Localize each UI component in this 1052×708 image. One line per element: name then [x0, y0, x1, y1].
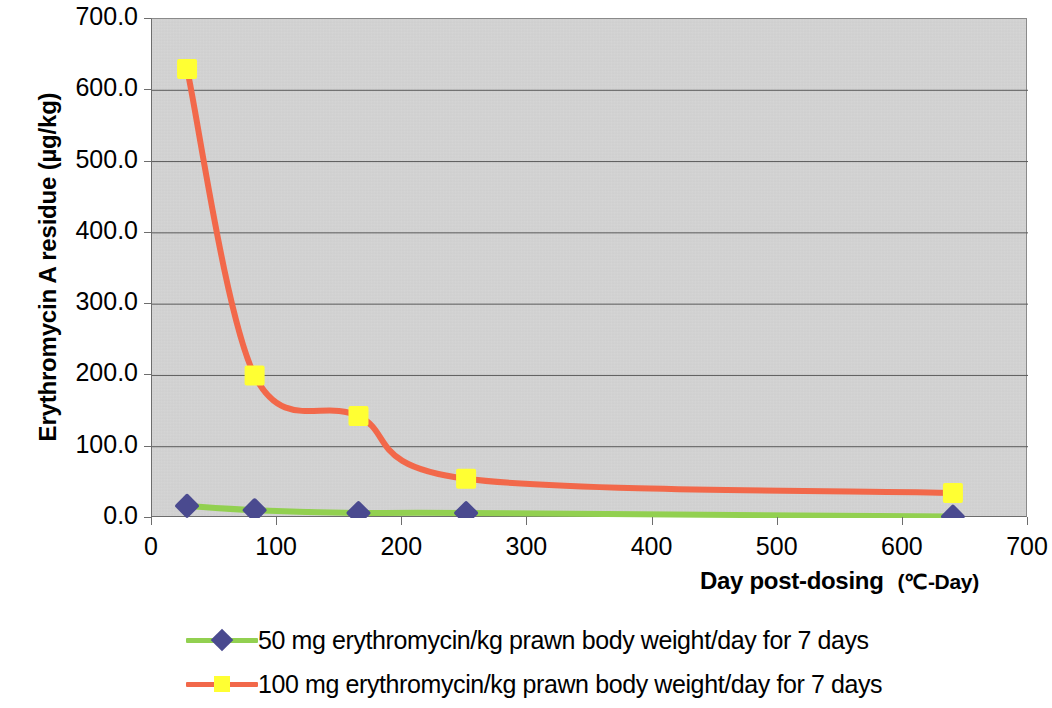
x-tick-label: 0: [106, 532, 196, 561]
series-1: [174, 493, 965, 518]
x-tick-mark: [902, 517, 903, 525]
x-tick-label: 200: [356, 532, 446, 561]
plot-area: [151, 18, 1027, 517]
y-tick-label: 100.0: [18, 430, 138, 459]
y-tick-label: 300.0: [18, 287, 138, 316]
data-point-marker: [245, 365, 265, 385]
legend-square-marker-icon: [214, 676, 230, 692]
x-tick-mark: [276, 517, 277, 525]
x-tick-mark: [777, 517, 778, 525]
data-point-marker: [453, 500, 478, 518]
data-point-marker: [348, 406, 368, 426]
chart-figure: Erythromycin A residue (µg/kg) 0.0100.02…: [0, 0, 1052, 708]
data-point-marker: [943, 483, 963, 503]
plot-svg: [152, 19, 1028, 518]
x-tick-label: 600: [857, 532, 947, 561]
y-tick-label: 700.0: [18, 2, 138, 31]
x-axis-title: Day post-dosing (℃-Day): [700, 567, 979, 595]
x-tick-mark: [151, 517, 152, 525]
x-tick-label: 300: [481, 532, 571, 561]
y-tick-mark: [144, 374, 151, 375]
y-tick-label: 400.0: [18, 216, 138, 245]
y-tick-mark: [144, 161, 151, 162]
legend-diamond-marker-icon: [211, 629, 234, 652]
x-tick-mark: [1027, 517, 1028, 525]
legend-label: 100 mg erythromycin/kg prawn body weight…: [258, 670, 882, 699]
data-point-marker: [456, 469, 476, 489]
y-tick-mark: [144, 18, 151, 19]
x-tick-label: 700: [982, 532, 1052, 561]
series-line: [187, 506, 953, 517]
legend-key: [186, 672, 258, 696]
x-axis-title-main: Day post-dosing: [700, 567, 884, 595]
x-tick-label: 500: [732, 532, 822, 561]
y-tick-label: 500.0: [18, 145, 138, 174]
y-tick-mark: [144, 89, 151, 90]
y-tick-mark: [144, 446, 151, 447]
x-tick-label: 100: [231, 532, 321, 561]
legend-item: 50 mg erythromycin/kg prawn body weight/…: [186, 618, 1046, 662]
chart-legend: 50 mg erythromycin/kg prawn body weight/…: [186, 618, 1046, 706]
y-tick-mark: [144, 232, 151, 233]
series-2: [177, 59, 963, 503]
series-layer: [174, 59, 965, 518]
y-tick-label: 200.0: [18, 358, 138, 387]
y-tick-label: 0.0: [18, 501, 138, 530]
data-point-marker: [242, 497, 267, 518]
y-tick-mark: [144, 517, 151, 518]
gridlines: [152, 90, 1028, 446]
y-tick-mark: [144, 303, 151, 304]
legend-key: [186, 628, 258, 652]
data-point-marker: [174, 493, 199, 518]
x-tick-label: 400: [607, 532, 697, 561]
x-tick-mark: [652, 517, 653, 525]
legend-label: 50 mg erythromycin/kg prawn body weight/…: [258, 626, 869, 655]
series-line: [187, 69, 953, 493]
data-point-marker: [177, 59, 197, 79]
x-axis-title-unit: (℃-Day): [898, 570, 979, 594]
legend-item: 100 mg erythromycin/kg prawn body weight…: [186, 662, 1046, 706]
x-tick-mark: [401, 517, 402, 525]
y-tick-label: 600.0: [18, 73, 138, 102]
data-point-marker: [940, 504, 965, 518]
data-point-marker: [346, 500, 371, 518]
x-tick-mark: [526, 517, 527, 525]
